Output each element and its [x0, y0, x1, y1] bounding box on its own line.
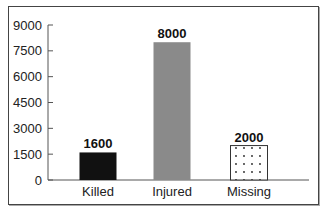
- category-label: Missing: [227, 184, 271, 199]
- bar-injured: [154, 42, 191, 180]
- bar-killed: [80, 152, 117, 180]
- y-tick-label: 6000: [13, 69, 42, 84]
- bar-missing: [231, 146, 268, 180]
- value-label: 8000: [158, 26, 187, 41]
- bar-chart: 0150030004500600075009000 1600Killed8000…: [0, 0, 329, 215]
- y-tick-label: 4500: [13, 95, 42, 110]
- y-tick-label: 3000: [13, 121, 42, 136]
- bars: 1600Killed8000Injured2000Missing: [80, 26, 272, 199]
- category-label: Killed: [82, 184, 114, 199]
- y-tick-label: 0: [35, 173, 42, 188]
- category-label: Injured: [152, 184, 192, 199]
- y-tick-label: 1500: [13, 147, 42, 162]
- y-tick-label: 7500: [13, 43, 42, 58]
- y-tick-label: 9000: [13, 18, 42, 33]
- value-label: 2000: [235, 130, 264, 145]
- value-label: 1600: [84, 136, 113, 151]
